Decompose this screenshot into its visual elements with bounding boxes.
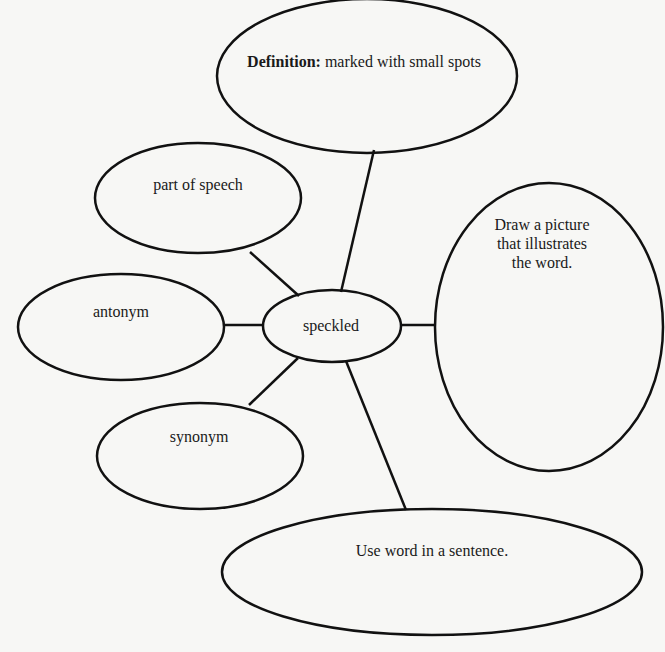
word-label: speckled (303, 316, 359, 335)
edge-synonym (249, 358, 298, 405)
edge-part-of-speech (250, 252, 299, 296)
part-of-speech-label: part of speech (153, 175, 243, 194)
part-of-speech-bubble (95, 143, 301, 253)
picture-label-line-3: the word. (494, 253, 589, 272)
picture-label-line-1: Draw a picture (494, 215, 589, 234)
definition-bubble (217, 0, 517, 153)
sentence-label: Use word in a sentence. (356, 541, 508, 560)
antonym-label: antonym (93, 302, 149, 321)
definition-label: Definition: marked with small spots (247, 52, 481, 71)
definition-heading: Definition: (247, 53, 321, 70)
antonym-bubble (18, 274, 224, 380)
synonym-label: synonym (170, 427, 229, 446)
definition-text: marked with small spots (325, 53, 481, 70)
picture-label: Draw a picture that illustrates the word… (494, 215, 589, 272)
word-map-diagram: Definition: marked with small spots part… (0, 0, 665, 652)
sentence-bubble (222, 509, 642, 635)
edge-sentence (346, 361, 406, 510)
edge-definition (341, 150, 374, 292)
synonym-bubble (97, 403, 303, 509)
picture-label-line-2: that illustrates (494, 234, 589, 253)
